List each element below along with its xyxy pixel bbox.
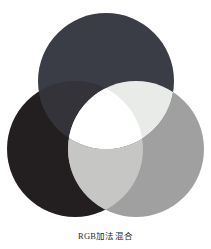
- venn-svg: [0, 0, 211, 226]
- figure-root: RGB加法混合: [0, 0, 211, 249]
- venn-diagram: [0, 0, 211, 226]
- figure-caption: RGB加法混合: [0, 230, 211, 242]
